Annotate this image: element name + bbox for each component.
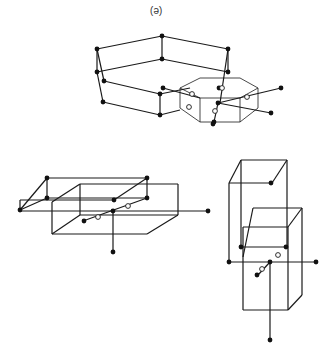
edge xyxy=(288,295,302,310)
edge xyxy=(114,178,147,200)
atom-dot xyxy=(145,176,150,181)
open-atom-dot xyxy=(213,109,218,114)
atom-dot xyxy=(211,122,216,127)
atom-dot xyxy=(216,101,221,106)
edge xyxy=(288,208,302,227)
edge xyxy=(162,59,228,72)
edge xyxy=(218,88,281,103)
atom-dot xyxy=(101,100,106,105)
atom-dot xyxy=(158,113,163,118)
edge xyxy=(97,36,162,49)
hexagonal-frame-with-octagonal-prism xyxy=(95,34,284,127)
edge xyxy=(52,184,80,202)
atom-dot xyxy=(226,47,231,52)
edge xyxy=(52,215,80,234)
atom-dot xyxy=(112,198,117,203)
structures-group xyxy=(18,34,319,343)
atom-dot xyxy=(268,338,273,343)
atom-dot xyxy=(45,196,50,201)
edge-thin xyxy=(180,108,200,122)
atom-dot xyxy=(145,196,150,201)
atom-dot xyxy=(227,260,232,265)
right-tall-box-pair xyxy=(227,160,319,342)
atom-dot xyxy=(206,209,211,214)
atom-dot xyxy=(102,79,107,84)
atom-dot xyxy=(160,57,165,62)
open-atom-dot xyxy=(220,86,225,91)
edge xyxy=(97,72,103,102)
atom-dot xyxy=(160,34,165,39)
edge xyxy=(162,36,228,49)
open-atom-dot xyxy=(190,92,195,97)
edge xyxy=(218,103,271,113)
open-atom-dot xyxy=(260,267,265,272)
edge xyxy=(97,59,162,72)
edge xyxy=(104,81,160,94)
atom-dot xyxy=(284,245,289,250)
atom-dot xyxy=(95,47,100,52)
atom-dot xyxy=(314,260,319,265)
edge xyxy=(160,110,180,115)
atom-dot xyxy=(111,250,116,255)
edge xyxy=(103,102,160,115)
atom-dot xyxy=(268,260,273,265)
atom-dot xyxy=(95,70,100,75)
atom-dot xyxy=(158,92,163,97)
atom-dot xyxy=(161,86,166,91)
edge xyxy=(229,160,241,183)
edge xyxy=(220,49,228,103)
atom-dot xyxy=(239,245,244,250)
edge xyxy=(147,215,178,234)
edge-thin xyxy=(180,78,200,88)
atom-dot xyxy=(279,86,284,91)
edge xyxy=(243,208,253,257)
edge xyxy=(20,178,47,210)
atom-dot xyxy=(226,70,231,75)
open-atom-dot xyxy=(276,253,281,258)
atom-dot xyxy=(45,176,50,181)
open-atom-dot xyxy=(245,95,250,100)
left-box-pair xyxy=(18,176,211,255)
open-atom-dot xyxy=(187,105,192,110)
atom-dot xyxy=(269,111,274,116)
atom-dot xyxy=(18,208,23,213)
edge-thin xyxy=(240,78,258,88)
atom-dot xyxy=(255,273,260,278)
atom-dot xyxy=(82,219,87,224)
open-atom-dot xyxy=(126,204,131,209)
atom-dot xyxy=(111,209,116,214)
open-atom-dot xyxy=(96,215,101,220)
crystal-structure-diagram xyxy=(0,0,327,352)
atom-dot xyxy=(269,181,274,186)
edge xyxy=(272,160,287,183)
